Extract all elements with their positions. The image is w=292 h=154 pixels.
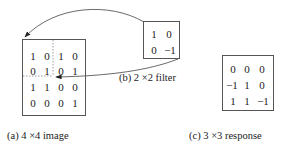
matrix-cell: 0 [69,50,81,62]
matrix-cell: 0 [255,63,269,75]
matrix-cell: 0 [27,97,39,109]
matrix-cell: −1 [162,44,178,56]
matrix-cell: 0 [55,65,67,77]
matrix-cell: −1 [254,95,272,107]
matrix-cell: 0 [55,81,67,93]
matrix-cell: 1 [226,95,240,107]
matrix-cell: 0 [41,50,53,62]
matrix-cell: 0 [162,28,176,40]
matrix-cell: 0 [41,97,53,109]
matrix-cell: 0 [69,81,81,93]
response-matrix: 0 0 0 −1 1 0 1 1 −1 [222,55,274,111]
matrix-cell: 0 [148,44,160,56]
matrix-cell: 1 [55,50,67,62]
filter-matrix: 1 0 0 −1 [143,21,180,59]
matrix-cell: 1 [69,97,81,109]
matrix-cell: 0 [55,97,67,109]
matrix-cell: 1 [27,81,39,93]
matrix-cell: 1 [241,79,253,91]
matrix-cell: 0 [27,65,39,77]
response-caption: (c) 3 ×3 response [189,130,262,141]
matrix-cell: 1 [241,95,253,107]
matrix-cell: 0 [255,79,269,91]
image-matrix: 1 0 1 0 0 1 0 1 1 1 0 0 0 0 0 1 [22,39,86,116]
matrix-cell: 1 [148,28,160,40]
matrix-cell: 1 [41,65,53,77]
matrix-cell: −1 [224,79,240,91]
filter-caption: (b) 2 ×2 filter [119,72,176,83]
image-caption: (a) 4 ×4 image [7,130,69,141]
matrix-cell: 0 [241,63,253,75]
matrix-cell: 1 [69,65,81,77]
matrix-cell: 1 [27,50,39,62]
matrix-cell: 0 [226,63,240,75]
arc-arrow [25,9,144,37]
matrix-cell: 1 [41,81,53,93]
